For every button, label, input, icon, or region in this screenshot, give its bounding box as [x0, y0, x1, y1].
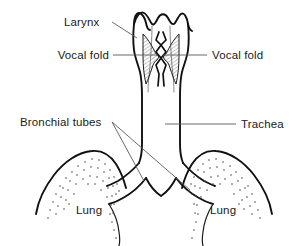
label-bronchial-tubes: Bronchial tubes [20, 116, 102, 128]
label-trachea: Trachea [241, 118, 284, 130]
label-vocal-fold-right: Vocal fold [212, 49, 263, 61]
label-vocal-fold-left: Vocal fold [58, 49, 109, 61]
label-lung-left: Lung [76, 204, 102, 216]
label-larynx: Larynx [64, 16, 100, 28]
diagram-canvas: Larynx Vocal fold Vocal fold Bronchial t… [0, 0, 308, 246]
respiratory-tract-diagram: Larynx Vocal fold Vocal fold Bronchial t… [0, 0, 308, 246]
label-lung-right: Lung [210, 204, 236, 216]
